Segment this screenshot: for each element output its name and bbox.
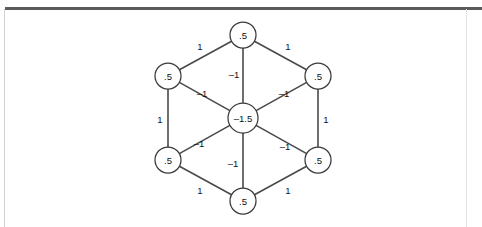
node-value-label: .5 bbox=[239, 30, 247, 41]
hexagon-graph-diagram: .5.5.5–1.5.5.5.5 111111–1–1–1–1–1–1 bbox=[0, 0, 482, 227]
graph-node: .5 bbox=[155, 63, 181, 89]
graph-node: .5 bbox=[305, 147, 331, 173]
edge-weight-label: –1 bbox=[197, 88, 208, 99]
graph-node: .5 bbox=[155, 147, 181, 173]
edge-weight-label: –1 bbox=[279, 88, 290, 99]
graph-edge bbox=[179, 125, 230, 154]
graph-edge bbox=[179, 41, 232, 70]
edge-weight-label: 1 bbox=[285, 185, 290, 196]
page-canvas: .5.5.5–1.5.5.5.5 111111–1–1–1–1–1–1 bbox=[0, 0, 482, 227]
edge-weight-label: 1 bbox=[157, 114, 162, 125]
graph-edge bbox=[254, 41, 307, 70]
node-value-label: .5 bbox=[239, 196, 247, 207]
edge-weight-label: –1 bbox=[280, 141, 291, 152]
graph-edge bbox=[179, 166, 232, 195]
node-value-label: .5 bbox=[314, 71, 322, 82]
node-value-label: –1.5 bbox=[234, 113, 253, 124]
graph-node: .5 bbox=[305, 63, 331, 89]
edge-weight-label: –1 bbox=[194, 138, 205, 149]
node-value-label: .5 bbox=[164, 71, 172, 82]
node-value-label: .5 bbox=[314, 155, 322, 166]
graph-node: –1.5 bbox=[228, 103, 258, 133]
edge-weight-label: 1 bbox=[285, 41, 290, 52]
node-value-label: .5 bbox=[164, 155, 172, 166]
graph-node: .5 bbox=[230, 22, 256, 48]
graph-edge bbox=[254, 166, 307, 195]
edge-weight-label: 1 bbox=[197, 41, 202, 52]
edge-weight-label: –1 bbox=[229, 69, 240, 80]
graph-node: .5 bbox=[230, 188, 256, 214]
edge-weight-label: –1 bbox=[228, 158, 239, 169]
edge-weight-label: 1 bbox=[323, 114, 328, 125]
edge-weight-label: 1 bbox=[197, 185, 202, 196]
